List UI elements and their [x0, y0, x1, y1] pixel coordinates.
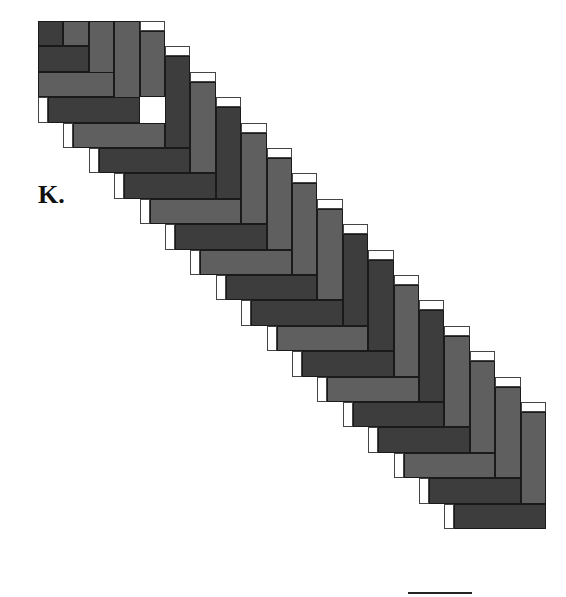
column-cap: [419, 300, 444, 310]
bar-cap: [165, 224, 175, 249]
column: [343, 234, 368, 326]
bar: [378, 427, 470, 452]
column-cap: [495, 377, 520, 387]
bar: [175, 224, 267, 249]
column-cap: [368, 250, 393, 260]
column-cap: [140, 21, 165, 31]
bar: [404, 453, 496, 478]
column: [267, 158, 292, 250]
bar-cap: [190, 250, 200, 275]
column: [292, 183, 317, 275]
column-cap: [267, 148, 292, 158]
bar: [302, 351, 394, 376]
column: [140, 31, 165, 97]
corner-cell: [38, 72, 114, 97]
bar: [277, 326, 369, 351]
corner-cell: [38, 21, 63, 46]
panel-label: K.: [38, 180, 65, 210]
column: [317, 209, 342, 301]
column-cap: [444, 326, 469, 336]
column-cap: [521, 402, 546, 412]
bar: [73, 123, 165, 148]
column: [495, 387, 520, 479]
bar-cap: [368, 427, 378, 452]
bar: [124, 173, 216, 198]
bar: [226, 275, 318, 300]
bar: [200, 250, 292, 275]
column-cap: [470, 351, 495, 361]
column: [521, 412, 546, 504]
corner-cell: [63, 21, 88, 46]
bar-cap: [63, 123, 73, 148]
column: [241, 133, 266, 225]
bar-cap: [419, 478, 429, 503]
column-cap: [394, 275, 419, 285]
bar: [327, 377, 419, 402]
column: [368, 260, 393, 352]
bar-cap: [38, 97, 48, 122]
bar-cap: [317, 377, 327, 402]
bar-cap: [216, 275, 226, 300]
bar-cap: [394, 453, 404, 478]
bar-cap: [292, 351, 302, 376]
column-cap: [343, 224, 368, 234]
bar: [429, 478, 521, 503]
column-cap: [241, 123, 266, 133]
bar-cap: [267, 326, 277, 351]
bar-cap: [89, 148, 99, 173]
column: [394, 285, 419, 377]
bar-cap: [140, 199, 150, 224]
bar: [150, 199, 242, 224]
column-cap: [216, 97, 241, 107]
column: [216, 107, 241, 199]
bar-cap: [114, 173, 124, 198]
bar: [251, 300, 343, 325]
bar: [48, 97, 140, 122]
column-cap: [190, 72, 215, 82]
bar-cap: [444, 504, 454, 529]
bar: [99, 148, 191, 173]
column: [470, 361, 495, 453]
column-cap: [317, 199, 342, 209]
column-cap: [165, 46, 190, 56]
column: [419, 310, 444, 402]
column: [165, 56, 190, 148]
bar: [454, 504, 546, 529]
scale-bar: [408, 592, 472, 594]
bar-cap: [241, 300, 251, 325]
column: [444, 336, 469, 428]
column-cap: [292, 173, 317, 183]
bar: [353, 402, 445, 427]
corner-cell: [38, 46, 89, 71]
bar-cap: [343, 402, 353, 427]
column: [190, 82, 215, 174]
